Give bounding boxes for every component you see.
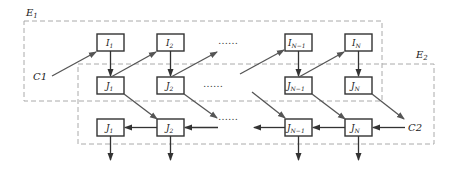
svg-text:……: …… <box>203 78 223 89</box>
node-j1-middle: J1 <box>97 77 124 94</box>
node-j2-middle: J2 <box>157 77 184 94</box>
region-e2-label: E2 <box>415 49 428 62</box>
ellipsis-markers: …… …… …… <box>203 35 238 122</box>
node-i2: I2 <box>157 34 184 51</box>
diagonal-down-arrows <box>124 92 404 119</box>
node-i-n: IN <box>345 34 372 51</box>
svg-text:……: …… <box>218 111 238 122</box>
node-j-n-bottom: JN <box>345 119 372 136</box>
node-i-n-minus-1: IN−1 <box>285 34 312 51</box>
node-j2-bottom: J2 <box>157 119 184 136</box>
svg-text:……: …… <box>218 35 238 46</box>
node-j-n-middle: JN <box>345 77 372 94</box>
input-c2-label: C2 <box>408 122 422 133</box>
node-j-n-minus-1-bottom: JN−1 <box>285 119 312 136</box>
input-c1-label: C1 <box>33 71 47 82</box>
region-e2 <box>78 64 434 144</box>
region-e1-label: E1 <box>25 7 38 20</box>
node-j-n-minus-1-middle: JN−1 <box>285 77 312 94</box>
diagram-canvas: E1 E2 I1 I2 IN−1 IN J1 J2 JN−1 JN J1 <box>0 0 457 171</box>
output-arrows <box>111 136 359 160</box>
node-j1-bottom: J1 <box>97 119 124 136</box>
node-i1: I1 <box>97 34 124 51</box>
